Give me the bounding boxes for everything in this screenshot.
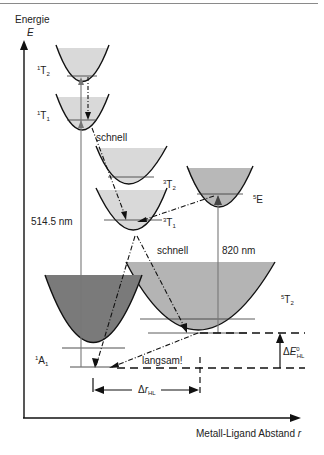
annotation-schnell-1: schnell xyxy=(96,132,127,143)
annotation-langsam: langsam! xyxy=(142,355,183,366)
label-1T2: 1T2 xyxy=(37,65,50,77)
y-axis xyxy=(20,40,28,418)
state-5T2-well xyxy=(126,262,275,333)
label-5E: 5E xyxy=(253,194,263,205)
y-axis-label: Energie xyxy=(15,14,50,25)
y-axis-symbol: E xyxy=(27,27,34,38)
label-1A1: 1A1 xyxy=(35,355,49,367)
label-1T1: 1T1 xyxy=(37,110,50,122)
state-3T2-well xyxy=(96,146,167,184)
annotation-schnell-2: schnell xyxy=(157,245,188,256)
y-axis-arrow-icon xyxy=(20,40,28,50)
annotation-820nm: 820 nm xyxy=(222,245,255,256)
x-axis-arrow-icon xyxy=(290,414,301,422)
label-5T2: 5T2 xyxy=(281,294,294,306)
energy-diagram: Energie E Metall-Ligand Abstand r 1T2 1T… xyxy=(0,0,324,455)
label-3T1: 3T1 xyxy=(163,217,176,229)
state-3T1-well xyxy=(96,188,167,230)
x-axis-label: Metall-Ligand Abstand r xyxy=(196,428,302,439)
annotation-514nm: 514.5 nm xyxy=(31,216,73,227)
state-1T2-well xyxy=(56,45,109,82)
delta-r-label: ΔrHL xyxy=(138,384,156,396)
x-axis xyxy=(23,414,301,422)
delta-e-label: ΔE0HL xyxy=(283,346,305,359)
state-1A1-well xyxy=(45,275,142,367)
label-3T2: 3T2 xyxy=(163,179,176,191)
